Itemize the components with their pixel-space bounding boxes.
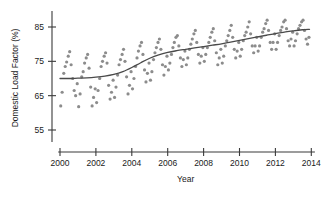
- data-point: [248, 20, 251, 23]
- data-point: [86, 53, 89, 56]
- data-point: [153, 51, 156, 54]
- data-point: [91, 104, 94, 107]
- data-point: [207, 41, 210, 44]
- data-point: [222, 55, 225, 58]
- data-point: [182, 58, 185, 61]
- data-point: [213, 39, 216, 42]
- x-axis-group: 20002002200420062008201020122014: [51, 148, 321, 168]
- data-point: [156, 41, 159, 44]
- x-tick-label: 2004: [122, 158, 141, 168]
- data-point: [271, 41, 274, 44]
- data-point: [92, 96, 95, 99]
- data-point: [173, 41, 176, 44]
- y-tick-label: 55: [35, 125, 45, 135]
- data-point: [197, 53, 200, 56]
- data-point: [137, 49, 140, 52]
- data-point: [249, 32, 252, 35]
- data-point: [283, 19, 286, 22]
- y-axis-tick-labels: 55657585: [35, 22, 45, 135]
- data-point: [170, 53, 173, 56]
- data-point: [288, 44, 291, 47]
- data-point: [85, 56, 88, 59]
- data-point: [122, 48, 125, 51]
- data-point: [224, 44, 227, 47]
- data-point: [307, 36, 310, 39]
- data-point: [77, 105, 80, 108]
- data-point: [59, 104, 62, 107]
- data-point: [101, 60, 104, 63]
- data-point: [287, 39, 290, 42]
- data-point: [194, 29, 197, 32]
- data-point: [105, 61, 108, 64]
- data-point: [231, 36, 234, 39]
- data-point: [252, 51, 255, 54]
- data-point: [219, 48, 222, 51]
- data-point: [261, 31, 264, 34]
- data-point: [121, 53, 124, 56]
- data-point: [135, 56, 138, 59]
- data-point: [70, 63, 73, 66]
- data-point: [96, 89, 99, 92]
- data-point: [258, 44, 261, 47]
- data-point: [240, 48, 243, 51]
- scatter-plot-svg: 55657585 2000200220042006200820102012201…: [0, 0, 324, 197]
- data-point: [180, 65, 183, 68]
- y-axis-group: 55657585: [35, 11, 56, 142]
- trend-line-path: [60, 29, 310, 78]
- data-point: [276, 41, 279, 44]
- data-point: [251, 44, 254, 47]
- data-point: [104, 51, 107, 54]
- data-point: [198, 61, 201, 64]
- data-point: [164, 65, 167, 68]
- data-point: [155, 46, 158, 49]
- data-point: [87, 67, 90, 70]
- data-point: [141, 53, 144, 56]
- data-point: [195, 41, 198, 44]
- data-point: [243, 34, 246, 37]
- data-point: [289, 37, 292, 40]
- data-point: [62, 72, 65, 75]
- data-point: [239, 55, 242, 58]
- data-point: [150, 70, 153, 73]
- data-point: [246, 25, 249, 28]
- data-point: [76, 82, 79, 85]
- data-point: [138, 44, 141, 47]
- data-point: [215, 51, 218, 54]
- data-point: [129, 70, 132, 73]
- data-point: [143, 68, 146, 71]
- data-point: [221, 61, 224, 64]
- data-point: [162, 73, 165, 76]
- x-tick-label: 2014: [302, 158, 321, 168]
- data-point: [200, 55, 203, 58]
- data-point: [204, 53, 207, 56]
- data-point: [191, 37, 194, 40]
- data-point: [83, 61, 86, 64]
- data-point: [125, 75, 128, 78]
- data-point: [147, 61, 150, 64]
- data-point: [270, 48, 273, 51]
- y-tick-label: 85: [35, 22, 45, 32]
- data-point: [294, 39, 297, 42]
- data-point: [304, 37, 307, 40]
- data-point: [74, 94, 77, 97]
- data-point: [103, 55, 106, 58]
- data-point: [68, 50, 71, 53]
- data-point: [218, 56, 221, 59]
- x-tick-label: 2012: [266, 158, 285, 168]
- data-point: [65, 60, 68, 63]
- data-point: [171, 46, 174, 49]
- data-point: [266, 19, 269, 22]
- data-points-layer: [59, 19, 310, 109]
- data-point: [132, 77, 135, 80]
- data-point: [89, 85, 92, 88]
- data-point: [278, 34, 281, 37]
- data-point: [94, 87, 97, 90]
- data-point: [152, 58, 155, 61]
- x-tick-label: 2002: [86, 158, 105, 168]
- data-point: [296, 32, 299, 35]
- data-point: [269, 41, 272, 44]
- data-point: [227, 34, 230, 37]
- data-point: [107, 84, 110, 87]
- data-point: [301, 19, 304, 22]
- data-point: [131, 87, 134, 90]
